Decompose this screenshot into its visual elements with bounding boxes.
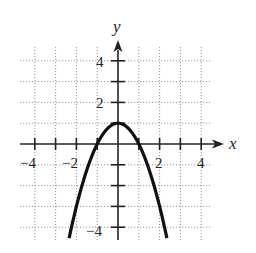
axes (20, 40, 224, 240)
x-axis-label: x (228, 134, 237, 153)
x-tick-label-neg4: −4 (20, 155, 36, 171)
x-tick-label-2: 2 (155, 155, 163, 171)
y-tick-label-2: 2 (96, 95, 104, 111)
graph-canvas: x y −4 −2 2 4 4 2 −4 (0, 0, 256, 253)
y-tick-label-4: 4 (96, 54, 104, 70)
y-tick-label-neg4: −4 (86, 223, 102, 239)
y-axis-label: y (111, 17, 121, 36)
x-tick-label-neg2: −2 (62, 155, 78, 171)
x-tick-label-4: 4 (197, 155, 205, 171)
